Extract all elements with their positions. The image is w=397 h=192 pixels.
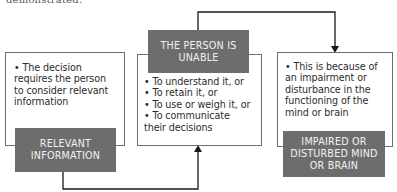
person-unable-text: • To understand it, or • To retain it, o… [144, 76, 250, 133]
person-unable-label: THE PERSON IS UNABLE [148, 30, 249, 73]
relevant-information-text: • The decision requires the person to co… [14, 62, 108, 108]
arrowhead-up-icon [194, 145, 202, 152]
impaired-mind-label: IMPAIRED OR DISTURBED MIND OR BRAIN [283, 131, 385, 177]
relevant-information-label: RELEVANT INFORMATION [15, 128, 116, 172]
impaired-mind-text: • This is because of an impairment or di… [285, 61, 378, 118]
